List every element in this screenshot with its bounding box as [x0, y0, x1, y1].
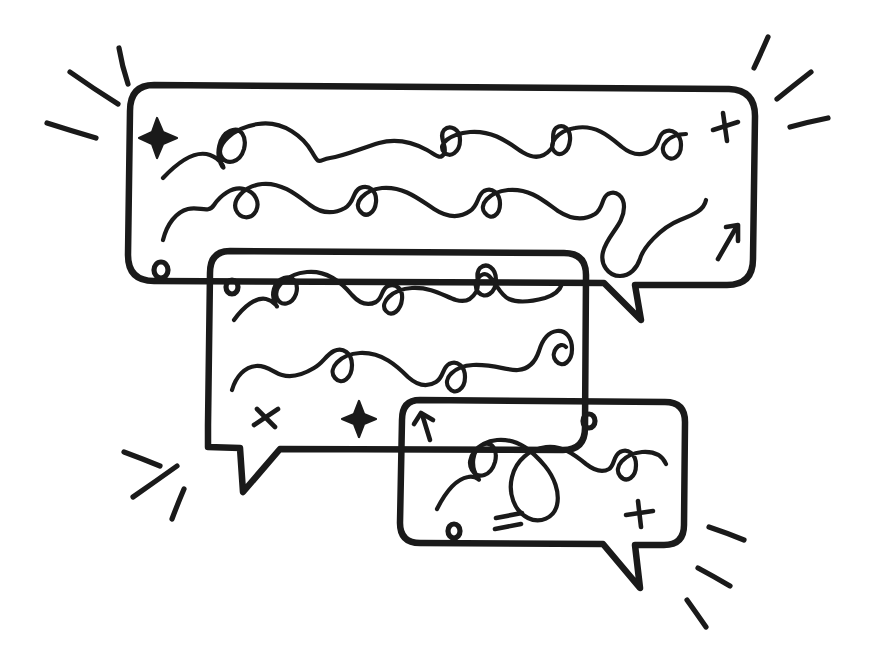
spark-ray: [124, 452, 160, 466]
bubble-back-outline: [128, 85, 755, 320]
x-mark-icon: [254, 409, 278, 427]
spark-ray: [698, 568, 730, 586]
circle-dot-icon: [154, 262, 168, 278]
circle-dot-icon: [226, 280, 238, 294]
arrow-icon: [718, 225, 738, 259]
spark-ray: [777, 72, 811, 99]
sparkle-star-icon: [139, 118, 177, 158]
bubble-middle[interactable]: [208, 251, 586, 492]
spark-bottom-left: [124, 452, 184, 519]
bubble-back-scribble-line: [163, 123, 686, 178]
spark-top-right: [754, 37, 828, 127]
bubble-back-scribble-line: [163, 184, 706, 276]
sparkle-star-icon: [342, 401, 376, 437]
circle-dot-icon: [448, 524, 460, 538]
spark-ray: [687, 600, 706, 627]
spark-bottom-right: [687, 527, 744, 627]
spark-ray: [790, 118, 828, 127]
arrow-icon: [414, 413, 433, 440]
spark-ray: [172, 489, 184, 519]
equals-sign-icon: [495, 513, 522, 529]
bubble-middle-scribble-line: [234, 266, 562, 320]
spark-ray: [754, 37, 768, 68]
spark-ray: [133, 466, 177, 497]
bubble-front-outline: [400, 400, 685, 588]
bubble-front[interactable]: [400, 400, 685, 588]
plus-sign-icon: [626, 501, 653, 527]
spark-top-left: [47, 48, 128, 138]
spark-ray: [70, 72, 118, 104]
circle-dot-icon: [583, 414, 595, 428]
spark-ray: [47, 123, 96, 138]
speech-bubbles-illustration: Hand-drawn black ink illustration of thr…: [0, 0, 869, 651]
illustration-canvas: Three overlapping speech bubbles with sq…: [0, 0, 869, 651]
plus-sign-icon: [713, 113, 738, 141]
spark-ray: [709, 527, 744, 540]
bubble-middle-scribble-line: [232, 331, 572, 392]
bubble-back[interactable]: [128, 85, 755, 320]
spark-ray: [119, 48, 128, 84]
